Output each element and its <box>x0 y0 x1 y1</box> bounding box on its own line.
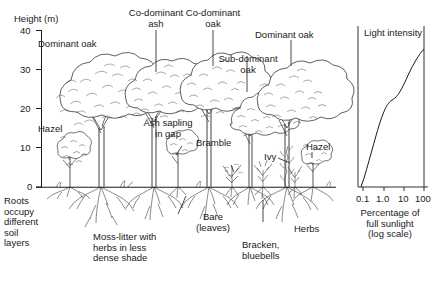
label-roots-occupy: Roots occupy different soil layers <box>4 196 38 249</box>
shrub-hazel-left <box>57 132 91 187</box>
label-ash-sapling: Ash sapling in gap <box>134 118 202 139</box>
label-hazel-right: Hazel <box>306 142 330 153</box>
label-herbs: Herbs <box>294 224 319 235</box>
light-panel-caption: Percentage of full sunlight (log scale) <box>348 208 432 240</box>
height-axis-title: Height (m) <box>14 14 58 25</box>
shrub-bramble <box>223 164 243 187</box>
label-moss-litter: Moss-litter with herbs in less dense sha… <box>93 232 156 264</box>
x-tick-1.0: 1.0 <box>376 193 389 204</box>
label-hazel-left: Hazel <box>38 124 62 135</box>
y-tick-20: 20 <box>20 103 31 114</box>
label-ivy: Ivy <box>264 152 276 163</box>
field-layer-herbs <box>56 160 331 187</box>
y-tick-0: 0 <box>27 181 32 192</box>
light-panel-title: Light intensity <box>364 28 422 39</box>
label-codominant-oak: Co-dominant oak <box>178 8 248 29</box>
label-dominant-oak-right: Dominant oak <box>255 30 314 41</box>
x-tick-100: 100 <box>415 193 431 204</box>
plant-ivy <box>280 146 294 187</box>
label-bare-leaves: Bare (leaves) <box>190 212 236 233</box>
y-tick-30: 30 <box>20 64 31 75</box>
forest-profile-figure: Height (m) 40 30 20 10 0 Dominant oak Co… <box>0 0 434 286</box>
height-axis <box>36 30 42 188</box>
x-tick-0.1: 0.1 <box>356 193 369 204</box>
y-tick-10: 10 <box>20 142 31 153</box>
label-dominant-oak-left: Dominant oak <box>38 39 97 50</box>
y-tick-40: 40 <box>20 25 31 36</box>
light-intensity-panel <box>358 26 428 191</box>
label-bramble: Bramble <box>196 138 231 149</box>
x-tick-10: 10 <box>398 193 409 204</box>
label-subdominant-oak: Sub-dominant oak <box>208 54 288 75</box>
label-bracken-bluebells: Bracken, bluebells <box>242 240 280 261</box>
